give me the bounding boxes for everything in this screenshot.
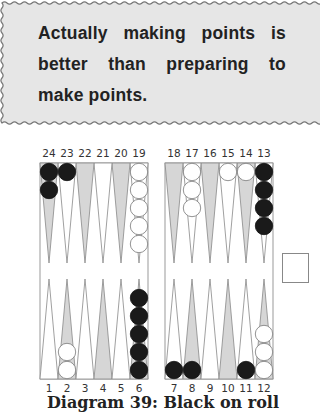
black-checker [130, 361, 147, 378]
black-checker [237, 361, 254, 378]
white-checker [58, 343, 75, 360]
black-checker [255, 199, 272, 216]
point-label-18: 18 [165, 147, 183, 159]
white-checker [130, 163, 147, 180]
point-label-15: 15 [219, 147, 237, 159]
white-checker [255, 361, 272, 378]
black-checker [255, 163, 272, 180]
diagram-caption: Diagram 39: Black on roll [0, 393, 326, 412]
white-checker [58, 361, 75, 378]
point-label-16: 16 [201, 147, 219, 159]
point-label-23: 23 [58, 147, 76, 159]
black-checker [40, 163, 57, 180]
black-checker [130, 325, 147, 342]
black-checker [165, 361, 182, 378]
black-checker [255, 217, 272, 234]
point-label-24: 24 [40, 147, 58, 159]
white-checker [130, 235, 147, 252]
white-checker [183, 199, 200, 216]
white-checker [237, 163, 254, 180]
black-checker [40, 181, 57, 198]
black-checker [183, 361, 200, 378]
black-checker [130, 307, 147, 324]
white-checker [183, 181, 200, 198]
white-checker [255, 343, 272, 360]
black-checker [130, 289, 147, 306]
point-label-13: 13 [255, 147, 273, 159]
point-label-20: 20 [112, 147, 130, 159]
point-label-21: 21 [94, 147, 112, 159]
black-checker [58, 163, 75, 180]
white-checker [183, 163, 200, 180]
white-checker [255, 325, 272, 342]
point-label-19: 19 [130, 147, 148, 159]
white-checker [130, 181, 147, 198]
black-checker [130, 343, 147, 360]
white-checker [130, 217, 147, 234]
point-label-14: 14 [237, 147, 255, 159]
point-label-22: 22 [76, 147, 94, 159]
doubling-cube [282, 253, 309, 283]
black-checker [255, 181, 272, 198]
white-checker [219, 163, 236, 180]
point-label-17: 17 [183, 147, 201, 159]
white-checker [130, 199, 147, 216]
